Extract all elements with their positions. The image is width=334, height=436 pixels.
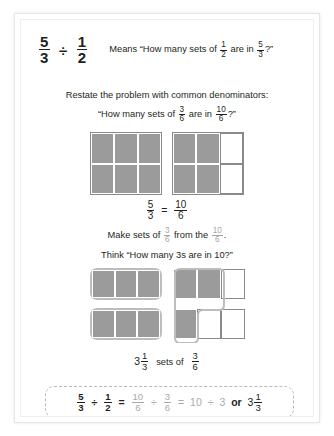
header-row: 5 3 ÷ 1 2 Means “How many sets of 1 2	[21, 34, 313, 66]
make-sets-middle: from the	[174, 230, 208, 240]
means-fraction-five-thirds: 5 3	[257, 41, 264, 59]
grid-cell	[138, 164, 161, 195]
final-op-1: ÷	[91, 396, 97, 408]
final-three: 3	[219, 396, 225, 408]
eq1-fraction-left: 5 3	[147, 200, 155, 221]
final-fraction-b: 1 2	[104, 392, 111, 413]
grid-cell	[114, 164, 137, 195]
make-sets-block: Make sets of 3 6 from the 10 6 . Think “…	[21, 227, 313, 263]
diagram-whole-squares	[21, 133, 313, 194]
mixed-numerator: 1	[141, 351, 148, 362]
main-fraction-left: 5 3	[39, 34, 50, 66]
means-fraction-one-half: 1 2	[220, 41, 227, 59]
tile-empty	[197, 309, 221, 339]
final-fraction-c: 10 6	[132, 392, 145, 413]
final-op-2: ÷	[151, 396, 157, 408]
make-sets-fraction-ten-sixths: 10 6	[212, 227, 223, 245]
final-fraction-a: 5 3	[77, 392, 84, 413]
tile	[173, 269, 197, 299]
means-f2-denominator: 3	[257, 51, 264, 59]
worksheet-frame-inner: 5 3 ÷ 1 2 Means “How many sets of 1 2	[20, 19, 314, 417]
final-c-denominator: 6	[132, 403, 145, 413]
diagram-grouped-sets	[21, 268, 313, 340]
think-line: Think “How many 3s are in 10?”	[21, 247, 313, 263]
main-left-denominator: 3	[39, 50, 50, 65]
final-equation-box: 5 3 ÷ 1 2 = 10 6 ÷ 3	[45, 386, 294, 417]
sets-of-label: sets of	[156, 357, 183, 367]
right-grouped-panel	[172, 268, 244, 340]
final-or: or	[231, 396, 242, 408]
final-b-numerator: 1	[104, 392, 111, 403]
tile-empty	[221, 309, 245, 339]
restate-f2-denominator: 6	[216, 115, 227, 123]
final-a-numerator: 5	[77, 392, 84, 403]
grid-cell	[196, 164, 219, 195]
grid-cell	[173, 164, 196, 195]
eq1-fraction-right: 10 6	[174, 200, 187, 221]
final-result-fraction: 1 3	[254, 392, 261, 413]
main-expression: 5 3 ÷ 1 2	[38, 34, 88, 66]
mixed-whole: 3	[134, 355, 140, 367]
eq1-equals: =	[161, 204, 167, 216]
tile	[137, 310, 160, 338]
make-sets-f2-denominator: 6	[212, 236, 223, 244]
worksheet-page: 5 3 ÷ 1 2 Means “How many sets of 1 2	[0, 0, 334, 436]
final-equals-1: =	[118, 396, 124, 408]
tile	[137, 270, 160, 298]
tile	[115, 310, 138, 338]
final-a-denominator: 3	[77, 403, 84, 413]
make-sets-fraction-three-sixths: 3 6	[164, 227, 171, 245]
make-sets-line-1: Make sets of 3 6 from the 10 6 .	[108, 230, 227, 240]
restate-fraction-three-sixths: 3 6	[179, 106, 186, 124]
final-result-numerator: 1	[254, 392, 261, 403]
mixed-denominator: 3	[141, 362, 148, 372]
grid-cell-empty	[220, 164, 243, 195]
tile	[197, 269, 221, 299]
final-fraction-d: 3 6	[164, 392, 171, 413]
equivalence-equation: 5 3 = 10 6	[21, 200, 313, 221]
mixed-fraction: 1 3	[141, 351, 148, 371]
final-mixed-result: 3 1 3	[248, 392, 263, 413]
tile	[115, 270, 138, 298]
tile-empty	[221, 269, 245, 299]
means-statement: Means “How many sets of 1 2 are in 5 3 ?…	[109, 40, 273, 59]
final-equation: 5 3 ÷ 1 2 = 10 6 ÷ 3	[76, 392, 263, 413]
whole-square	[91, 133, 161, 194]
restate-line2-middle: are in	[189, 109, 212, 119]
means-prefix: Means “How many sets of	[109, 45, 216, 55]
main-fraction-right: 1 2	[77, 34, 88, 66]
left-grouped-panel	[90, 268, 162, 340]
grid-cell	[91, 133, 114, 164]
final-d-denominator: 6	[164, 403, 171, 413]
sets-of-denominator: 6	[192, 362, 199, 372]
restate-line2-suffix: ?”	[228, 109, 236, 119]
tile	[92, 310, 115, 338]
tile	[92, 270, 115, 298]
restate-block: Restate the problem with common denomina…	[21, 88, 313, 124]
means-suffix: ?”	[265, 45, 273, 55]
grid-cell-empty	[220, 133, 243, 164]
main-left-numerator: 5	[39, 34, 50, 50]
main-divide-symbol: ÷	[59, 42, 67, 59]
eq1-right-denominator: 6	[174, 211, 187, 221]
final-b-denominator: 2	[104, 403, 111, 413]
final-result-denominator: 3	[254, 403, 261, 413]
main-right-denominator: 2	[77, 50, 88, 65]
make-sets-f1-denominator: 6	[164, 236, 171, 244]
mixed-number-result: 3 1 3	[134, 351, 149, 371]
grid-cell	[138, 133, 161, 164]
tile	[173, 309, 197, 339]
sets-of-fraction: 3 6	[192, 351, 199, 371]
grid-cell	[173, 133, 196, 164]
means-f1-denominator: 2	[220, 51, 227, 59]
main-right-numerator: 1	[77, 34, 88, 50]
restate-fraction-ten-sixths: 10 6	[216, 106, 227, 124]
final-ten: 10	[190, 396, 202, 408]
final-c-numerator: 10	[132, 392, 145, 403]
restate-line-1: Restate the problem with common denomina…	[66, 90, 269, 100]
restate-line2-prefix: “How many sets of	[98, 109, 175, 119]
sets-of-numerator: 3	[192, 351, 199, 362]
final-op-3: ÷	[208, 396, 214, 408]
final-result-whole: 3	[248, 396, 254, 408]
final-d-numerator: 3	[164, 392, 171, 403]
